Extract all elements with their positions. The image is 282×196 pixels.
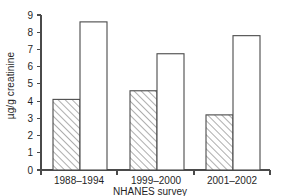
x-axis-title: NHANES survey	[113, 186, 187, 196]
y-tick-label: 4	[27, 96, 33, 107]
x-category-label: 1999–2000	[131, 175, 181, 186]
bar-open-2001-2002	[233, 36, 260, 170]
bar-group-2001-2002	[206, 36, 260, 170]
x-category-label: 2001–2002	[207, 175, 257, 186]
bar-group-1999-2000	[130, 54, 184, 170]
bar-hatched-1988-1994	[53, 99, 80, 170]
y-tick-label: 9	[27, 10, 33, 21]
bar-open-1988-1994	[80, 22, 107, 170]
chart-plot-area: 0 1 2 3 4 5 6 7 8 9	[0, 0, 282, 196]
y-tick-label: 3	[27, 113, 33, 124]
y-axis-ticks	[37, 15, 41, 170]
y-tick-label: 5	[27, 78, 33, 89]
bar-hatched-2001-2002	[206, 115, 233, 170]
y-tick-label: 0	[27, 165, 33, 176]
bar-open-1999-2000	[157, 54, 184, 170]
chart-container: µg/g creatinine 0 1	[0, 0, 282, 196]
bar-hatched-1999-2000	[130, 91, 157, 170]
y-tick-label: 7	[27, 44, 33, 55]
y-tick-label: 6	[27, 61, 33, 72]
x-category-label: 1988–1994	[54, 175, 104, 186]
y-axis-tick-labels: 0 1 2 3 4 5 6 7 8 9	[27, 10, 33, 176]
x-axis-category-labels: 1988–1994 1999–2000 2001–2002	[54, 175, 257, 186]
y-tick-label: 1	[27, 147, 33, 158]
bar-group-1988-1994	[53, 22, 107, 170]
y-tick-label: 2	[27, 130, 33, 141]
y-tick-label: 8	[27, 27, 33, 38]
